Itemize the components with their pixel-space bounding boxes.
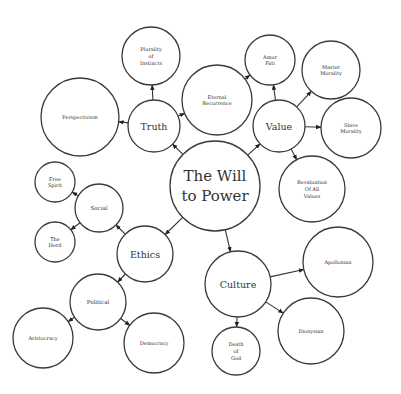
node-label: Eternal bbox=[208, 94, 227, 100]
node-label: Perspectivism bbox=[62, 114, 98, 121]
edge-arrow-truth-to-plurality bbox=[152, 85, 153, 100]
nodes-layer: The Willto PowerTruthValueEthicsCultureP… bbox=[13, 27, 381, 375]
node-label: Fati bbox=[265, 60, 275, 66]
node-deathofgod: DeathofGod bbox=[212, 327, 260, 375]
edge-arrow-value-to-slave bbox=[305, 127, 321, 128]
edge-arrow-value-to-revaluation bbox=[291, 149, 297, 160]
concept-map-diagram: The Willto PowerTruthValueEthicsCultureP… bbox=[0, 0, 401, 394]
node-label: The bbox=[50, 236, 60, 242]
edge-arrow-will-to-ethics bbox=[165, 217, 183, 234]
edge-arrow-eternal-to-amor bbox=[245, 75, 250, 79]
node-label: Herd bbox=[49, 242, 63, 248]
node-aristocracy: Aristocracy bbox=[13, 308, 73, 368]
node-label: Values bbox=[303, 193, 321, 199]
node-truth: Truth bbox=[128, 100, 180, 152]
node-label: Death bbox=[228, 341, 244, 347]
edge-arrow-ethics-to-social bbox=[116, 225, 125, 234]
node-revaluation: RevaluationOf AllValues bbox=[279, 156, 345, 222]
edge-arrow-culture-to-dionysian bbox=[266, 302, 284, 313]
node-label: Spirit bbox=[48, 182, 62, 189]
edge-arrow-political-to-democracy bbox=[121, 319, 130, 326]
edge-arrow-truth-to-eternal bbox=[178, 113, 185, 116]
edge-arrow-will-to-culture bbox=[225, 230, 230, 252]
node-label: Recurrence bbox=[202, 100, 232, 106]
node-label: Truth bbox=[141, 121, 168, 132]
node-social: Social bbox=[75, 184, 123, 232]
node-label: Master bbox=[322, 64, 341, 70]
node-label: Aristocracy bbox=[28, 335, 58, 342]
edge-arrow-social-to-freespirit bbox=[72, 192, 78, 196]
node-master: MasterMorality bbox=[302, 41, 360, 99]
edge-arrow-culture-to-apollonian bbox=[270, 270, 304, 277]
edge-arrow-social-to-herd bbox=[71, 223, 80, 230]
node-herd: TheHerd bbox=[35, 222, 75, 262]
node-apollonian: Apollonian bbox=[303, 227, 373, 297]
node-label: Of All bbox=[305, 186, 320, 192]
node-circle bbox=[170, 141, 260, 231]
node-dionysian: Dionysian bbox=[278, 298, 344, 364]
node-label: Instincts bbox=[140, 60, 162, 66]
node-label: Amor bbox=[262, 54, 277, 60]
node-label: to Power bbox=[181, 187, 249, 205]
node-plurality: PluralityofInstincts bbox=[122, 27, 180, 85]
node-label: Social bbox=[91, 205, 108, 211]
node-democracy: Democracy bbox=[124, 313, 184, 373]
node-label: Apollonian bbox=[323, 259, 352, 266]
node-amor: AmorFati bbox=[245, 35, 295, 85]
node-label: Morality bbox=[320, 70, 342, 77]
node-political: Political bbox=[70, 274, 126, 330]
node-label: Free bbox=[49, 176, 61, 182]
node-label: Ethics bbox=[130, 249, 160, 260]
node-value: Value bbox=[253, 100, 305, 152]
node-label: God bbox=[231, 355, 242, 361]
edge-arrow-value-to-master bbox=[297, 91, 312, 107]
node-label: Culture bbox=[220, 279, 257, 290]
edge-arrow-will-to-truth bbox=[173, 144, 183, 154]
node-culture: Culture bbox=[205, 251, 271, 317]
node-label: Value bbox=[265, 121, 293, 132]
node-will: The Willto Power bbox=[170, 141, 260, 231]
node-ethics: Ethics bbox=[117, 226, 173, 282]
node-label: Political bbox=[87, 299, 110, 305]
node-slave: SlaveMorality bbox=[321, 98, 381, 158]
node-label: Slave bbox=[344, 122, 358, 128]
edge-arrow-truth-to-perspectivism bbox=[119, 122, 129, 123]
node-label: Revaluation bbox=[297, 179, 328, 185]
node-label: The Will bbox=[184, 167, 247, 185]
node-freespirit: FreeSpirit bbox=[35, 162, 75, 202]
node-eternal: EternalRecurrence bbox=[182, 65, 252, 135]
node-perspectivism: Perspectivism bbox=[41, 78, 119, 156]
edge-arrow-will-to-value bbox=[248, 144, 260, 155]
node-label: Dionysian bbox=[298, 328, 324, 335]
edge-arrow-political-to-aristocracy bbox=[68, 317, 75, 321]
node-label: Democracy bbox=[140, 340, 169, 347]
node-label: Morality bbox=[340, 128, 362, 135]
edge-arrow-ethics-to-political bbox=[118, 274, 126, 282]
edge-arrow-value-to-amor bbox=[273, 85, 275, 100]
